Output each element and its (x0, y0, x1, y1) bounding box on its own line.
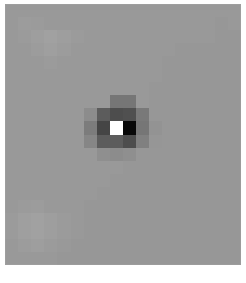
pixel-cell (31, 161, 45, 175)
pixel-cell (97, 213, 111, 227)
pixel-cell (136, 174, 150, 188)
pixel-cell (110, 135, 124, 149)
pixel-cell (44, 148, 58, 162)
pixel-cell (18, 82, 32, 96)
pixel-cell (202, 95, 216, 109)
pixel-cell (97, 148, 111, 162)
pixel-cell (175, 4, 189, 18)
pixel-cell (175, 95, 189, 109)
pixel-cell (18, 252, 32, 265)
pixel-cell (44, 252, 58, 265)
pixel-cell (5, 239, 19, 253)
pixel-cell (31, 213, 45, 227)
pixel-cell (84, 252, 98, 265)
pixel-cell (18, 239, 32, 253)
pixel-cell (84, 226, 98, 240)
pixel-cell (97, 252, 111, 265)
pixel-cell (71, 30, 85, 44)
pixel-cell (18, 108, 32, 122)
pixel-cell (202, 121, 216, 135)
pixel-cell (228, 252, 241, 265)
pixel-cell (136, 187, 150, 201)
pixel-cell (162, 121, 176, 135)
pixel-cell (175, 187, 189, 201)
pixel-cell (57, 135, 71, 149)
pixel-cell (44, 161, 58, 175)
pixel-cell (31, 108, 45, 122)
pixel-cell (123, 30, 137, 44)
pixel-cell (215, 239, 229, 253)
pixel-cell (44, 226, 58, 240)
pixel-cell (162, 187, 176, 201)
pixel-cell (110, 252, 124, 265)
pixel-cell (175, 213, 189, 227)
pixel-cell (149, 187, 163, 201)
pixel-cell (189, 200, 203, 214)
pixel-cell (57, 213, 71, 227)
pixel-cell (97, 95, 111, 109)
pixel-cell (202, 43, 216, 57)
pixel-cell (215, 56, 229, 70)
pixel-cell (44, 121, 58, 135)
pixel-cell (18, 56, 32, 70)
pixel-cell (97, 226, 111, 240)
pixel-cell (44, 174, 58, 188)
pixel-cell (202, 148, 216, 162)
pixel-cell (18, 161, 32, 175)
pixel-cell (97, 56, 111, 70)
pixel-cell (97, 174, 111, 188)
pixel-cell (215, 200, 229, 214)
pixel-cell (5, 226, 19, 240)
pixel-cell (202, 252, 216, 265)
pixel-cell (162, 213, 176, 227)
pixel-cell (123, 82, 137, 96)
pixel-cell (84, 95, 98, 109)
pixel-cell (18, 17, 32, 31)
pixel-cell (202, 17, 216, 31)
pixel-cell (71, 200, 85, 214)
pixel-cell (57, 226, 71, 240)
pixel-cell (123, 148, 137, 162)
pixel-cell (110, 95, 124, 109)
pixel-cell (215, 69, 229, 83)
pixel-cell (202, 56, 216, 70)
pixel-cell (5, 30, 19, 44)
pixel-cell (97, 239, 111, 253)
pixel-cell (44, 69, 58, 83)
pixel-cell (71, 148, 85, 162)
pixel-cell (31, 226, 45, 240)
pixel-cell (18, 174, 32, 188)
pixel-cell (189, 56, 203, 70)
pixel-cell (5, 174, 19, 188)
pixel-cell (189, 239, 203, 253)
pixel-cell (18, 69, 32, 83)
pixel-cell (228, 200, 241, 214)
pixel-cell (149, 200, 163, 214)
pixel-cell (31, 148, 45, 162)
pixel-cell (202, 226, 216, 240)
pixel-cell (136, 82, 150, 96)
pixel-cell (149, 226, 163, 240)
pixel-cell (97, 4, 111, 18)
pixel-cell (5, 108, 19, 122)
pixel-cell (31, 174, 45, 188)
pixel-cell (57, 43, 71, 57)
pixel-cell (71, 174, 85, 188)
pixel-cell (189, 108, 203, 122)
pixel-cell (202, 213, 216, 227)
pixel-cell (110, 4, 124, 18)
pixel-cell (202, 187, 216, 201)
pixel-cell (110, 187, 124, 201)
pixel-cell (175, 226, 189, 240)
pixel-cell (228, 69, 241, 83)
pixel-cell (175, 135, 189, 149)
pixel-cell (44, 30, 58, 44)
pixel-cell (136, 161, 150, 175)
pixel-cell (162, 43, 176, 57)
pixel-cell (31, 69, 45, 83)
pixel-cell (71, 95, 85, 109)
pixel-cell (228, 213, 241, 227)
pixel-cell (162, 135, 176, 149)
pixel-cell (97, 17, 111, 31)
pixel-cell (57, 148, 71, 162)
